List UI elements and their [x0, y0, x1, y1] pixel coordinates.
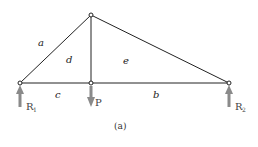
truss-members — [20, 15, 229, 83]
svg-text:P: P — [95, 97, 102, 108]
svg-text:1: 1 — [33, 106, 37, 113]
reaction-r2-arrow-icon — [225, 85, 233, 107]
joint-mid-icon — [89, 81, 93, 85]
truss-canvas: a d e c b R 1 P R 2 (a) — [0, 0, 258, 147]
joint-apex-icon — [89, 13, 93, 17]
member-left-diagonal — [20, 15, 91, 83]
joint-right-icon — [227, 81, 231, 85]
reaction-r1-arrow-icon — [16, 85, 24, 107]
force-label-r2: R 2 — [235, 101, 246, 113]
region-label-d: d — [66, 54, 72, 65]
region-label-e: e — [123, 55, 129, 66]
member-right-diagonal — [91, 15, 229, 83]
force-label-r1: R 1 — [26, 101, 37, 113]
joints — [18, 13, 231, 85]
region-label-c: c — [55, 89, 61, 100]
region-label-a: a — [38, 37, 44, 48]
force-label-p: P — [95, 97, 102, 108]
svg-text:2: 2 — [242, 106, 246, 113]
figure-caption: (a) — [114, 121, 126, 131]
force-arrows — [16, 85, 233, 107]
region-label-b: b — [153, 89, 159, 100]
truss-diagram: a d e c b R 1 P R 2 (a) — [0, 0, 258, 147]
joint-left-icon — [18, 81, 22, 85]
load-p-arrow-icon — [87, 86, 95, 107]
